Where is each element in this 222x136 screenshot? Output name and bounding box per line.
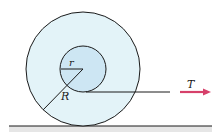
spool-diagram: r R T [0,0,222,136]
diagram-svg [0,0,222,136]
inner-radius-label: r [69,57,74,68]
outer-radius-label: R [61,90,69,103]
tension-label: T [187,78,194,91]
tension-arrow-icon [203,89,211,96]
ground-surface [9,126,212,132]
